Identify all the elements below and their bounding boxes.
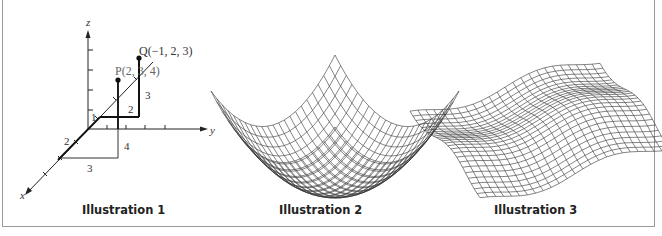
caption-illustration-1: Illustration 1 [82,202,165,217]
illustration-3-wavy-surface [0,0,662,236]
caption-illustration-2: Illustration 2 [279,202,362,217]
caption-illustration-3: Illustration 3 [494,202,577,217]
